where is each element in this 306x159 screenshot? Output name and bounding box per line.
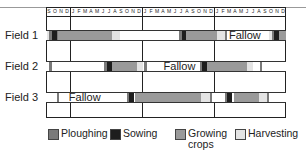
legend-item-sowing: Sowing: [110, 128, 157, 140]
field-label: Field 1: [5, 29, 38, 41]
growing-segment: [112, 62, 137, 71]
harvesting-segment: [259, 93, 267, 102]
legend-label: Growingcrops: [188, 128, 227, 150]
field-timeline-bar: Fallow: [46, 30, 286, 41]
legend-item-growing: Growingcrops: [175, 128, 227, 150]
harvesting-segment: [217, 31, 225, 40]
legend-item-harvesting: Harvesting: [235, 128, 298, 140]
harvesting-segment: [201, 93, 209, 102]
crop-rotation-diagram: SONDJFMAMJJASONDJFMAMJJASONDJFMAMJJASOND…: [0, 0, 306, 159]
fallow-label: Fallow: [164, 61, 196, 72]
harvesting-segment: [247, 62, 253, 71]
ploughing-segment: [225, 31, 227, 40]
field-label: Field 2: [5, 60, 38, 72]
field-timeline-bar: Fallow: [46, 92, 286, 103]
growing-segment: [58, 31, 112, 40]
harvesting-segment: [112, 31, 120, 40]
ploughing-segment: [267, 93, 269, 102]
ploughing-segment: [57, 93, 59, 102]
fallow-label: Fallow: [69, 92, 101, 103]
growing-segment: [135, 93, 201, 102]
sowing-swatch-icon: [110, 129, 121, 140]
legend-label: Sowing: [123, 128, 157, 139]
ploughing-segment: [144, 62, 146, 71]
growing-segment: [279, 31, 286, 40]
fallow-label: Fallow: [229, 30, 261, 41]
growing-segment: [186, 31, 217, 40]
legend-label: Harvesting: [248, 128, 298, 139]
growing-segment: [234, 93, 259, 102]
month-header-divider: [46, 16, 286, 17]
ploughing-segment: [210, 93, 212, 102]
legend-label: Ploughing: [61, 128, 108, 139]
sowing-segment: [129, 93, 134, 102]
field-label: Field 3: [5, 91, 38, 103]
harvesting-segment: [137, 62, 143, 71]
ploughing-segment: [49, 62, 52, 71]
growing-segment: [207, 62, 247, 71]
legend-item-ploughing: Ploughing: [48, 128, 108, 140]
ploughing-segment: [260, 62, 262, 71]
month-label: D: [280, 8, 286, 15]
ploughing-swatch-icon: [48, 129, 59, 140]
sowing-segment: [227, 93, 232, 102]
harvesting-swatch-icon: [235, 129, 246, 140]
field-timeline-bar: Fallow: [46, 61, 286, 72]
growing-swatch-icon: [175, 129, 186, 140]
